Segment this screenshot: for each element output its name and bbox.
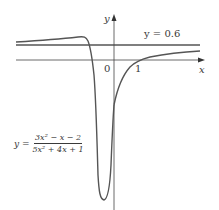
formula-denominator: 5x² + 4x + 1 [33,144,84,154]
x-axis-label: x [199,65,205,75]
origin-label: 0 [104,64,110,74]
function-formula: y = 3x² − x − 2 5x² + 4x + 1 [14,133,84,154]
formula-lhs: y = [14,139,30,149]
formula-fraction: 3x² − x − 2 5x² + 4x + 1 [33,133,84,154]
curve-right-branch [114,51,200,105]
tick-label-one: 1 [135,64,141,74]
curve-left-branch [16,37,114,200]
function-graph [0,0,219,210]
asymptote-label: y = 0.6 [144,29,180,39]
y-axis-label: y [104,14,110,24]
formula-numerator: 3x² − x − 2 [34,133,82,144]
x-axis-arrow-icon [198,58,205,63]
y-axis-arrow-icon [112,14,117,21]
